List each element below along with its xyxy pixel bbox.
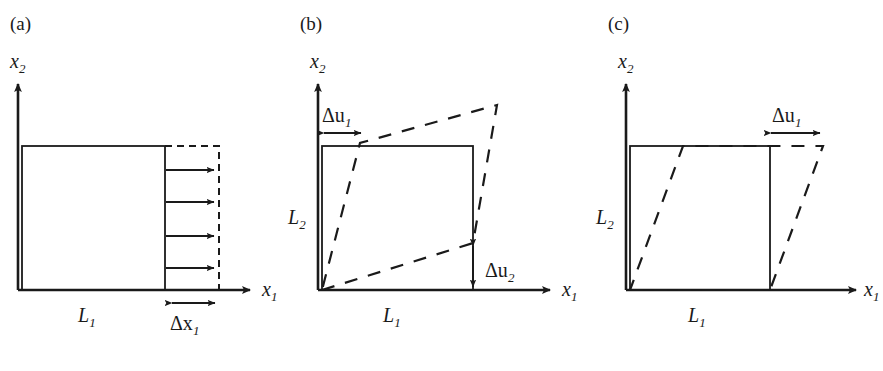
panel-c-label-du1-sub: 1	[795, 115, 802, 130]
panel-c-tag: (c)	[608, 13, 629, 35]
panel-a-label-L1-sub: 1	[89, 315, 96, 330]
panel-c-x-axis-label-base: x	[863, 278, 873, 300]
panel-b-solid-square	[322, 146, 473, 290]
panel-b-label-L1: L1	[382, 304, 401, 330]
panel-a-y-axis-label: x2	[9, 50, 26, 76]
panel-a-y-axis-label-base: x	[9, 50, 19, 72]
panel-b-label-du2: Δu2	[485, 259, 515, 285]
panel-a-label-dx1-sub: 1	[193, 323, 200, 338]
panel-c	[626, 84, 856, 290]
panel-a-x-axis-label-base: x	[261, 278, 271, 300]
panel-c-solid-square	[630, 146, 770, 290]
panel-a-traction-arrows	[166, 170, 214, 268]
panel-c-label-L2-base: L	[595, 206, 607, 228]
panel-b-label-L2: L2	[287, 206, 306, 232]
panel-b-label-L1-base: L	[382, 304, 394, 326]
panel-b-label-L2-base: L	[287, 206, 299, 228]
panel-a-label-L1-base: L	[77, 304, 89, 326]
panel-b	[318, 84, 550, 290]
panel-a-label-dx1-base: Δx	[170, 312, 193, 334]
panel-b-label-du1-sub: 1	[345, 115, 352, 130]
panel-c-label-L2-sub: 2	[607, 217, 614, 232]
panel-a-tag: (a)	[10, 13, 31, 35]
panel-c-label-L2: L2	[595, 206, 614, 232]
panel-b-label-du2-base: Δu	[485, 259, 508, 281]
deformation-figure: (a) x2 x1 L1 Δx1 (b) x2 x1 L2 L1 Δu1	[0, 0, 883, 371]
panel-b-x-axis-label-sub: 1	[571, 289, 578, 304]
panel-c-y-axis-label-sub: 2	[627, 61, 634, 76]
panel-c-deformed-shape	[630, 146, 823, 290]
panel-b-x-axis-label-base: x	[561, 278, 571, 300]
panel-c-x-axis-label: x1	[863, 278, 879, 304]
panel-b-label-du2-sub: 2	[508, 270, 515, 285]
panel-b-label-L2-sub: 2	[299, 217, 306, 232]
panel-b-x-axis-label: x1	[561, 278, 577, 304]
panel-c-label-du1-base: Δu	[772, 104, 795, 126]
panel-b-label-L1-sub: 1	[394, 315, 401, 330]
panel-c-label-L1-sub: 1	[699, 315, 706, 330]
panel-c-x-axis-label-sub: 1	[873, 289, 880, 304]
panel-a-x-axis-label: x1	[261, 278, 277, 304]
panel-a-x-axis-label-sub: 1	[271, 289, 278, 304]
panel-c-y-axis-label-base: x	[617, 50, 627, 72]
panel-b-label-du1-base: Δu	[322, 104, 345, 126]
panel-b-y-axis-label-sub: 2	[319, 61, 326, 76]
panel-a	[18, 84, 250, 303]
panel-c-label-L1: L1	[687, 304, 706, 330]
panel-c-label-du1: Δu1	[772, 104, 801, 130]
panel-b-y-axis-label: x2	[309, 50, 326, 76]
panel-c-y-axis-label: x2	[617, 50, 634, 76]
panel-b-label-du1: Δu1	[322, 104, 351, 130]
panel-a-solid-square	[22, 146, 165, 290]
panel-b-y-axis-label-base: x	[309, 50, 319, 72]
panel-c-label-L1-base: L	[687, 304, 699, 326]
panel-a-label-L1: L1	[77, 304, 96, 330]
panel-b-tag: (b)	[300, 13, 322, 35]
panel-a-label-dx1: Δx1	[170, 312, 199, 338]
figure-canvas: (a) x2 x1 L1 Δx1 (b) x2 x1 L2 L1 Δu1	[0, 0, 883, 371]
panel-a-y-axis-label-sub: 2	[19, 61, 26, 76]
